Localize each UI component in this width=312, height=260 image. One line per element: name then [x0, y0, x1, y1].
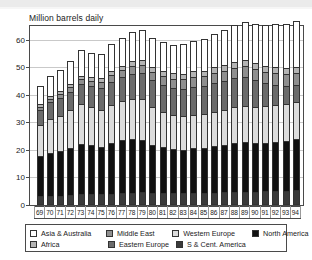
bar-segment — [99, 111, 104, 147]
scan-band-top-secondary — [0, 7, 312, 9]
bar-segment — [161, 43, 166, 72]
y-axis-tick-label: 60 — [16, 35, 25, 44]
bar-segment — [79, 145, 84, 195]
stacked-bar[interactable] — [47, 76, 54, 205]
stacked-bar[interactable] — [201, 39, 208, 205]
legend-item[interactable]: S & Cent. America — [176, 240, 258, 249]
bar-slot — [86, 26, 96, 205]
bar-segment — [191, 42, 196, 73]
stacked-bar[interactable] — [67, 61, 74, 205]
stacked-bar[interactable] — [170, 45, 177, 205]
stacked-bar[interactable] — [242, 22, 249, 205]
bar-segment — [161, 86, 166, 113]
stacked-bar[interactable] — [211, 34, 218, 205]
bar-segment — [181, 151, 186, 195]
scan-band-top — [0, 0, 312, 7]
legend-item[interactable]: Asia & Australia — [30, 229, 106, 238]
bar-segment — [99, 195, 104, 204]
legend-item[interactable]: Africa — [30, 240, 108, 249]
legend-item[interactable]: Eastern Europe — [108, 240, 176, 249]
bar-segment — [171, 80, 176, 89]
legend-label: Eastern Europe — [119, 240, 169, 249]
bar-segment — [68, 196, 73, 204]
bar-slot — [76, 26, 86, 205]
y-axis-tick-mark — [26, 177, 29, 178]
stacked-bar[interactable] — [98, 54, 105, 205]
bar-segment — [58, 197, 63, 204]
bar-segment — [79, 51, 84, 76]
bar-segment — [243, 107, 248, 143]
bar-segment — [120, 71, 125, 78]
stacked-bar[interactable] — [129, 32, 136, 205]
bar-segment — [294, 140, 299, 191]
y-axis-tick-mark — [26, 150, 29, 151]
stacked-bar[interactable] — [88, 53, 95, 205]
bar-segment — [284, 87, 289, 105]
bar-slot — [271, 26, 281, 205]
bar-segment — [181, 194, 186, 204]
y-axis-tick-label: 50 — [16, 63, 25, 72]
bar-segment — [284, 75, 289, 87]
bar-segment — [99, 148, 104, 196]
chart-legend: Asia & AustraliaMiddle EastWestern Europ… — [25, 224, 287, 252]
stacked-bar[interactable] — [57, 70, 64, 205]
bar-segment — [89, 195, 94, 204]
bar-segment — [222, 193, 227, 204]
y-axis-tick-label: 30 — [16, 118, 25, 127]
bar-segment — [120, 141, 125, 194]
bar-segment — [273, 74, 278, 86]
bar-slot — [45, 26, 55, 205]
bar-slot — [291, 26, 301, 205]
stacked-bar[interactable] — [231, 25, 238, 205]
stacked-bar[interactable] — [160, 42, 167, 205]
legend-swatch-icon — [106, 230, 113, 237]
stacked-bar[interactable] — [37, 86, 44, 205]
stacked-bar[interactable] — [119, 38, 126, 205]
stacked-bar[interactable] — [108, 44, 115, 205]
stacked-bar[interactable] — [78, 50, 85, 205]
chart-screenshot: Million barrels daily 0102030405060 6970… — [0, 0, 312, 260]
stacked-bar[interactable] — [149, 38, 156, 205]
stacked-bar[interactable] — [262, 25, 269, 205]
legend-swatch-icon — [30, 230, 37, 237]
bar-segment — [263, 84, 268, 107]
legend-label: North America — [263, 229, 309, 238]
legend-item[interactable]: Western Europe — [172, 229, 252, 238]
bar-segment — [202, 87, 207, 115]
bar-slot — [158, 26, 168, 205]
bar-segment — [232, 193, 237, 204]
bar-segment — [212, 147, 217, 193]
bar-slot — [127, 26, 137, 205]
bar-segment — [222, 111, 227, 146]
bar-segment — [232, 26, 237, 62]
stacked-bar[interactable] — [221, 30, 228, 205]
bar-segment — [109, 83, 114, 106]
stacked-bar[interactable] — [190, 41, 197, 205]
bar-segment — [284, 105, 289, 142]
bar-segment — [68, 149, 73, 196]
bar-segment — [130, 194, 135, 204]
bar-slot — [117, 26, 127, 205]
bar-segment — [161, 194, 166, 204]
stacked-bar[interactable] — [139, 30, 146, 205]
bar-segment — [140, 141, 145, 193]
stacked-bar[interactable] — [180, 44, 187, 205]
legend-item[interactable]: Middle East — [106, 229, 172, 238]
bar-segment — [38, 126, 43, 157]
bar-segment — [181, 80, 186, 89]
bar-segment — [273, 192, 278, 204]
bar-segment — [58, 117, 63, 152]
stacked-bar[interactable] — [272, 24, 279, 205]
bar-segment — [212, 113, 217, 148]
stacked-bar[interactable] — [293, 21, 300, 205]
bar-segment — [130, 140, 135, 194]
legend-item[interactable]: North America — [252, 229, 282, 238]
bar-segment — [253, 81, 258, 107]
bar-segment — [284, 192, 289, 204]
bar-segment — [79, 85, 84, 105]
bar-segment — [222, 82, 227, 111]
stacked-bar[interactable] — [252, 24, 259, 205]
bar-segment — [243, 67, 248, 78]
stacked-bar[interactable] — [283, 24, 290, 205]
y-axis-tick-mark — [26, 95, 29, 96]
